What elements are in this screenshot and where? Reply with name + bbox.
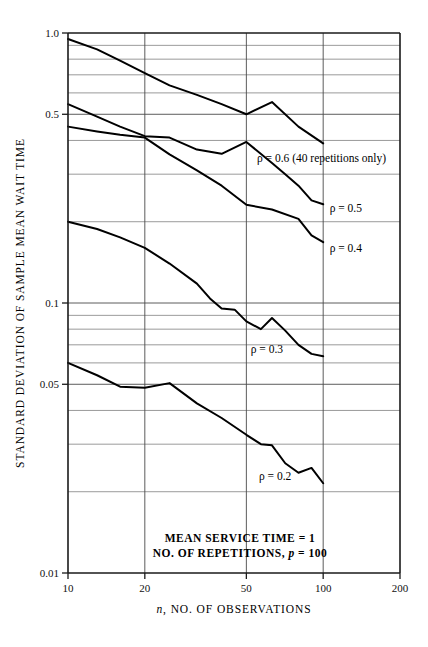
- x-tick-label-10: 10: [63, 582, 75, 594]
- y-tick-label-0.05: 0.05: [40, 378, 60, 390]
- minor-gridlines: [68, 45, 400, 491]
- x-tick-labels: 102050100200: [63, 582, 409, 594]
- x-tick-label-200: 200: [392, 582, 409, 594]
- y-tick-label-0.01: 0.01: [40, 567, 59, 579]
- curve-rho-0.3: [68, 222, 323, 357]
- curve-label-rho-0.6: ρ = 0.6 (40 repetitions only): [257, 152, 386, 165]
- curve-label-rho-0.4: ρ = 0.4: [330, 242, 363, 255]
- annotation-no-of-repetitions: NO. OF REPETITIONS, p = 100: [153, 547, 328, 560]
- curve-rho-0.4: [68, 127, 323, 243]
- data-curves: [68, 39, 323, 483]
- curve-label-rho-0.2: ρ = 0.2: [259, 470, 292, 483]
- curve-rho-0.6: [68, 39, 323, 143]
- curve-rho-0.2: [68, 363, 323, 483]
- y-axis-title: STANDARD DEVIATION OF SAMPLE MEAN WAIT T…: [14, 138, 26, 468]
- curve-label-rho-0.3: ρ = 0.3: [251, 343, 284, 356]
- chart-annotation-block: MEAN SERVICE TIME = 1 NO. OF REPETITIONS…: [153, 532, 328, 560]
- x-tick-label-50: 50: [241, 582, 253, 594]
- tick-marks: [62, 33, 400, 579]
- annotation-mean-service-time: MEAN SERVICE TIME = 1: [165, 532, 316, 544]
- y-tick-label-0.5: 0.5: [45, 108, 59, 120]
- x-axis-title: n, NO. OF OBSERVATIONS: [156, 603, 311, 616]
- y-tick-labels: 0.010.050.10.51.0: [40, 27, 60, 579]
- y-tick-label-0.1: 0.1: [45, 297, 59, 309]
- figure-container: 102050100200 0.010.050.10.51.0 ρ = 0.6 (…: [0, 0, 428, 647]
- curve-label-rho-0.5: ρ = 0.5: [330, 202, 363, 215]
- standard-deviation-log-log-chart: 102050100200 0.010.050.10.51.0 ρ = 0.6 (…: [0, 0, 428, 647]
- x-tick-label-100: 100: [315, 582, 332, 594]
- y-tick-label-1.0: 1.0: [45, 27, 59, 39]
- x-tick-label-20: 20: [139, 582, 151, 594]
